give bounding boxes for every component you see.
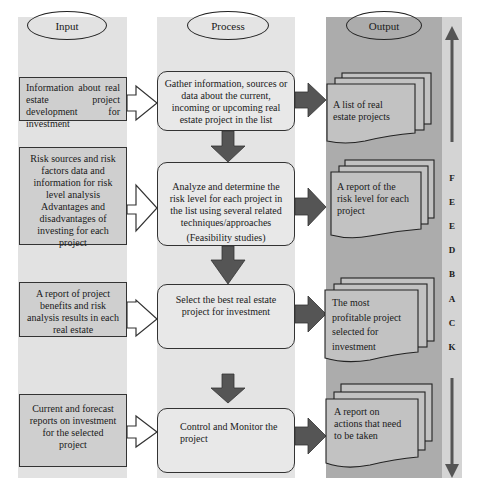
output-line: project	[337, 205, 409, 217]
feedback-letter: K	[442, 342, 462, 352]
output-text-1: A list of real estate projects	[333, 99, 390, 123]
feedback-letter: A	[442, 294, 462, 304]
feedback-letter: C	[442, 318, 462, 328]
output-line: A list of real	[333, 99, 390, 111]
output-text-2: A report of the risk level for each proj…	[337, 181, 409, 217]
hollow-arrow-icon	[127, 86, 157, 447]
output-text-3: The most profitable project selected for…	[332, 296, 401, 354]
feedback-letter: D	[442, 245, 462, 255]
feedback-letter: B	[442, 269, 462, 279]
feedback-letter: F	[442, 173, 462, 183]
down-arrow-icon	[211, 131, 245, 403]
flow-arrows	[0, 0, 477, 495]
output-line: profitable project	[332, 311, 401, 326]
output-line: A report on	[334, 406, 401, 418]
output-text-4: A report on actions that need to be take…	[334, 406, 401, 442]
output-line: investment	[332, 340, 401, 355]
output-line: risk level for each	[337, 193, 409, 205]
output-line: selected for	[332, 325, 401, 340]
feedback-letter: E	[442, 221, 462, 231]
output-line: estate projects	[333, 111, 390, 123]
output-line: A report of the	[337, 181, 409, 193]
feedback-letter: E	[442, 197, 462, 207]
output-line: to be taken	[334, 430, 401, 442]
output-line: The most	[332, 296, 401, 311]
solid-arrow-icon	[295, 83, 326, 454]
output-line: actions that need	[334, 418, 401, 430]
